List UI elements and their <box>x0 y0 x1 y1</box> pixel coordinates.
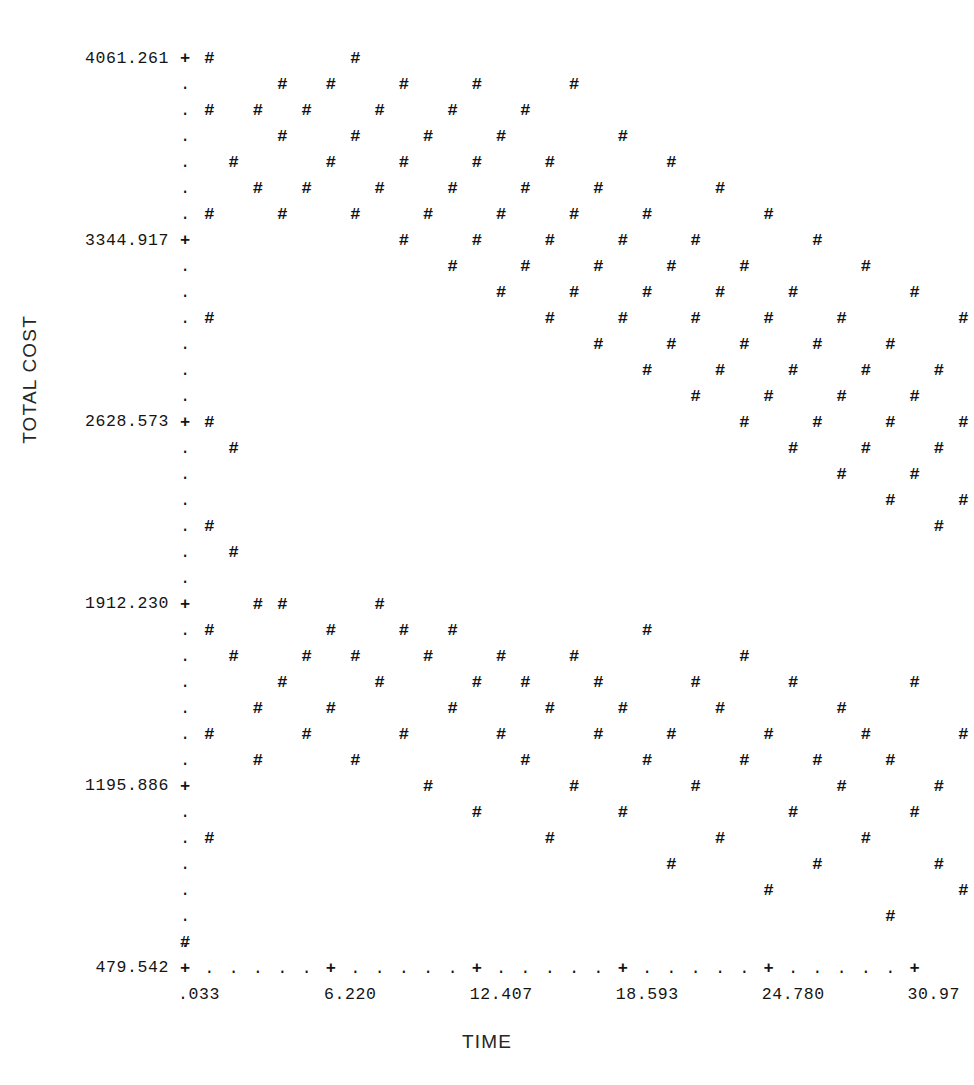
data-point-marker: # <box>541 310 558 327</box>
x-axis-minor-tick: . <box>590 960 607 977</box>
data-point-marker: # <box>541 830 558 847</box>
y-axis-minor-tick: . <box>177 544 194 561</box>
x-axis-minor-tick: . <box>371 960 388 977</box>
data-point-marker: # <box>468 154 485 171</box>
data-point-marker: # <box>347 648 364 665</box>
data-point-marker: # <box>420 648 437 665</box>
data-point-marker: # <box>639 752 656 769</box>
data-point-marker: # <box>590 258 607 275</box>
data-point-marker: # <box>785 362 802 379</box>
y-axis-minor-tick: . <box>177 518 194 535</box>
data-point-marker: # <box>906 804 923 821</box>
y-axis-minor-tick: . <box>177 700 194 717</box>
data-point-marker: # <box>249 596 266 613</box>
x-axis-minor-tick: . <box>517 960 534 977</box>
data-point-marker: # <box>930 362 947 379</box>
data-point-marker: # <box>736 336 753 353</box>
x-axis-minor-tick: . <box>249 960 266 977</box>
data-point-marker: # <box>517 102 534 119</box>
data-point-marker: # <box>857 726 874 743</box>
y-axis-minor-tick: . <box>177 882 194 899</box>
data-point-marker: # <box>371 102 388 119</box>
data-point-marker: # <box>590 336 607 353</box>
data-point-marker: # <box>857 362 874 379</box>
data-point-marker: # <box>639 622 656 639</box>
data-point-marker: # <box>955 726 972 743</box>
x-axis-minor-tick: . <box>809 960 826 977</box>
data-point-marker: # <box>468 804 485 821</box>
data-point-marker: # <box>517 180 534 197</box>
data-point-marker: # <box>882 752 899 769</box>
y-axis-title: TOTAL COST <box>19 315 41 444</box>
data-point-marker: # <box>833 388 850 405</box>
data-point-marker: # <box>833 466 850 483</box>
y-axis-minor-tick: . <box>177 284 194 301</box>
data-point-marker: # <box>566 206 583 223</box>
data-point-marker: # <box>395 232 412 249</box>
data-point-marker: # <box>906 284 923 301</box>
data-point-marker: # <box>663 154 680 171</box>
data-point-marker: # <box>420 778 437 795</box>
y-axis-minor-tick: . <box>177 206 194 223</box>
y-axis-minor-tick: . <box>177 440 194 457</box>
data-point-marker: # <box>395 154 412 171</box>
data-point-marker: # <box>712 830 729 847</box>
data-point-marker: # <box>371 596 388 613</box>
data-point-marker: # <box>736 752 753 769</box>
data-point-marker: # <box>347 128 364 145</box>
data-point-marker: # <box>517 752 534 769</box>
data-point-marker: # <box>566 76 583 93</box>
y-axis-major-tick: + <box>177 50 194 67</box>
data-point-marker: # <box>493 726 510 743</box>
data-point-marker: # <box>882 492 899 509</box>
data-point-marker: # <box>201 830 218 847</box>
data-point-marker: # <box>785 284 802 301</box>
data-point-marker: # <box>833 310 850 327</box>
y-axis-minor-tick: . <box>177 908 194 925</box>
data-point-marker: # <box>809 336 826 353</box>
x-axis-tick-label: 18.593 <box>616 985 679 1004</box>
data-point-marker: # <box>444 102 461 119</box>
y-axis-tick-label: 3344.917 <box>45 233 169 249</box>
data-point-marker: # <box>663 856 680 873</box>
data-point-marker: # <box>809 414 826 431</box>
data-point-marker: # <box>444 700 461 717</box>
data-point-marker: # <box>614 232 631 249</box>
data-point-marker: # <box>298 180 315 197</box>
data-point-marker: # <box>760 882 777 899</box>
y-axis-minor-tick: . <box>177 310 194 327</box>
data-point-marker: # <box>201 726 218 743</box>
data-point-marker: # <box>541 232 558 249</box>
data-point-marker: # <box>955 414 972 431</box>
x-axis-major-tick: + <box>468 960 485 977</box>
data-point-marker: # <box>712 180 729 197</box>
y-axis-minor-tick: . <box>177 648 194 665</box>
data-point-marker: # <box>882 414 899 431</box>
x-axis-minor-tick: . <box>566 960 583 977</box>
x-axis-minor-tick: . <box>663 960 680 977</box>
data-point-marker: # <box>322 700 339 717</box>
data-point-marker: # <box>712 362 729 379</box>
data-point-marker: # <box>468 232 485 249</box>
data-point-marker: # <box>857 830 874 847</box>
x-axis-minor-tick: . <box>712 960 729 977</box>
data-point-marker: # <box>347 206 364 223</box>
data-point-marker: # <box>663 336 680 353</box>
data-point-marker: # <box>663 726 680 743</box>
data-point-marker: # <box>420 206 437 223</box>
data-point-marker: # <box>274 596 291 613</box>
x-axis-minor-tick: . <box>201 960 218 977</box>
y-axis-tick-label: 4061.261 <box>45 51 169 67</box>
data-point-marker: # <box>614 310 631 327</box>
data-point-marker: # <box>955 492 972 509</box>
data-point-marker: # <box>760 310 777 327</box>
data-point-marker: # <box>614 804 631 821</box>
data-point-marker: # <box>785 804 802 821</box>
data-point-marker: # <box>712 700 729 717</box>
data-point-marker: # <box>736 648 753 665</box>
y-axis-minor-tick: . <box>177 180 194 197</box>
data-point-marker: # <box>395 76 412 93</box>
data-point-marker: # <box>468 674 485 691</box>
data-point-marker: # <box>639 206 656 223</box>
data-point-marker: # <box>882 336 899 353</box>
